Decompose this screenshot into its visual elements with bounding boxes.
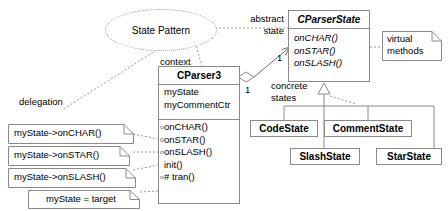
operation-row-onslash: onSLASH()	[164, 146, 239, 159]
operation-label: onSLASH()	[164, 146, 212, 157]
visibility-marker-icon	[160, 176, 164, 180]
abstract-state-label: abstract state	[222, 13, 284, 36]
class-cparser3-title: CParser3	[159, 67, 239, 84]
note-delegate-onstar: myState->onSTAR()	[8, 146, 130, 166]
class-slashstate[interactable]: SlashState	[290, 148, 360, 165]
operation-label: init()	[164, 159, 182, 170]
note-leader-tranmethod	[140, 191, 158, 192]
uml-state-pattern-diagram: State Pattern abstract state context del…	[0, 0, 448, 211]
operation-row-onstar: onSTAR()	[294, 45, 369, 58]
class-codestate[interactable]: CodeState	[250, 120, 318, 137]
multiplicity-context-end: 1	[245, 84, 250, 95]
class-slashstate-label: SlashState	[299, 151, 350, 162]
state-pattern-bubble: State Pattern	[105, 9, 217, 51]
class-starstate-label: StarState	[387, 151, 431, 162]
operation-label: # tran()	[164, 171, 195, 182]
note-delegate-onchar: myState->onCHAR()	[8, 124, 134, 144]
note-text: virtual methods	[382, 31, 442, 59]
multiplicity-state-end: 1	[277, 52, 282, 63]
operation-label: onCHAR()	[164, 121, 208, 132]
note-assign-mystate: myState = target	[28, 190, 140, 209]
class-cparserstate-operations: onCHAR() onSTAR() onSLASH()	[289, 28, 369, 72]
concrete-states-leader	[330, 96, 356, 104]
aggregation-diamond	[238, 72, 254, 82]
note-leader-oncharmethod	[133, 134, 158, 139]
class-cparser3-operations: onCHAR() onSTAR() onSLASH() init() # tra…	[159, 119, 239, 186]
delegation-label: delegation	[19, 96, 99, 108]
class-cparserstate-title: CParserState	[289, 11, 369, 28]
visibility-marker-icon	[160, 138, 164, 142]
concrete-states-label: concrete states	[271, 80, 333, 103]
operation-row-tran: # tran()	[164, 171, 239, 184]
class-cparser3-attributes: myState myCommentCtr	[159, 84, 239, 119]
class-commentstate[interactable]: CommentState	[324, 120, 412, 137]
note-delegate-onslash: myState->onSLASH()	[8, 168, 136, 188]
class-commentstate-label: CommentState	[333, 123, 404, 134]
operation-label: onSTAR()	[164, 134, 206, 145]
operation-row-onchar: onCHAR()	[164, 121, 239, 134]
note-text: myState->onCHAR()	[8, 124, 134, 142]
operation-row-init: init()	[164, 159, 239, 172]
note-leader-onslashmethod	[133, 165, 158, 170]
state-pattern-bubble-label: State Pattern	[132, 25, 190, 36]
note-text: myState = target	[28, 190, 140, 208]
note-text: myState->onSLASH()	[8, 168, 136, 186]
note-virtual-methods: virtual methods	[382, 31, 442, 61]
association-line	[254, 47, 290, 77]
class-cparserstate[interactable]: CParserState onCHAR() onSTAR() onSLASH()	[288, 10, 370, 82]
class-starstate[interactable]: StarState	[376, 148, 442, 165]
operation-row-onstar: onSTAR()	[164, 134, 239, 147]
visibility-marker-icon	[160, 126, 164, 130]
operation-row-onchar: onCHAR()	[294, 32, 369, 45]
attribute-row: myState	[164, 86, 239, 99]
attribute-row: myCommentCtr	[164, 99, 239, 112]
visibility-marker-icon	[160, 151, 164, 155]
class-cparser3[interactable]: CParser3 myState myCommentCtr onCHAR() o…	[158, 66, 240, 204]
note-text: myState->onSTAR()	[8, 146, 130, 164]
operation-row-onslash: onSLASH()	[294, 57, 369, 70]
class-codestate-label: CodeState	[259, 123, 308, 134]
